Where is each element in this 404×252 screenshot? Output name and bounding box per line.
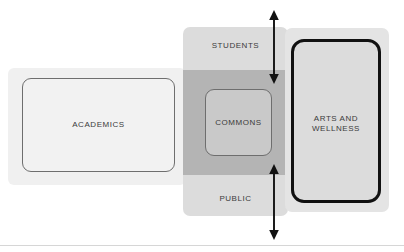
double-headed-arrow-bottom-icon xyxy=(262,164,286,240)
footer-divider xyxy=(0,245,404,246)
commons-label: COMMONS xyxy=(205,118,272,128)
diagram-canvas: ACADEMICS STUDENTS PUBLIC COMMONS ARTS A… xyxy=(0,0,404,252)
academics-label: ACADEMICS xyxy=(22,120,175,130)
double-headed-arrow-top-icon xyxy=(262,10,286,84)
arts-and-wellness-label: ARTS AND WELLNESS xyxy=(291,114,381,134)
